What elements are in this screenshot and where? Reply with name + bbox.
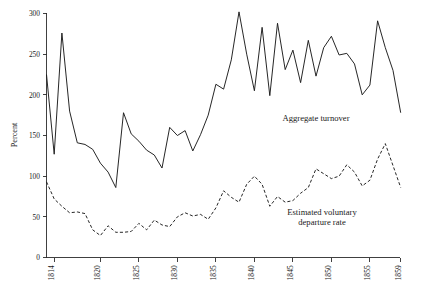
chart-axes bbox=[47, 13, 401, 258]
y-tick-label: 150 bbox=[29, 131, 40, 140]
chart-figure: 300 250 200 150 100 50 0 Percent 1814 18 bbox=[0, 0, 429, 293]
x-tick-label: 1855 bbox=[363, 265, 372, 281]
y-tick-label: 300 bbox=[29, 9, 40, 18]
line-chart: 300 250 200 150 100 50 0 Percent 1814 18 bbox=[0, 0, 429, 293]
x-tick-label: 1835 bbox=[209, 265, 218, 281]
y-tick-label: 250 bbox=[29, 50, 40, 59]
y-tick-labels: 300 250 200 150 100 50 0 bbox=[29, 9, 40, 262]
aggregate-turnover-label: Aggregate turnover bbox=[282, 113, 349, 123]
y-axis-title: Percent bbox=[10, 122, 19, 147]
y-tick-label: 0 bbox=[36, 253, 40, 262]
x-tick-labels: 1814 1820 1825 1830 1835 1840 1845 1850 … bbox=[47, 265, 403, 281]
y-tick-marks bbox=[43, 14, 47, 258]
series-line-aggregate-turnover bbox=[47, 12, 401, 188]
y-tick-label: 200 bbox=[29, 91, 40, 100]
x-tick-label: 1850 bbox=[324, 265, 333, 281]
x-tick-label: 1845 bbox=[286, 265, 295, 281]
x-tick-label: 1830 bbox=[170, 265, 179, 281]
x-tick-label: 1859 bbox=[394, 265, 403, 281]
series-line-departure-rate bbox=[47, 144, 401, 236]
departure-rate-label-line1: Estimated voluntary bbox=[287, 207, 357, 217]
y-tick-label: 50 bbox=[33, 213, 41, 222]
x-tick-label: 1840 bbox=[247, 265, 256, 281]
x-tick-label: 1820 bbox=[93, 265, 102, 281]
x-tick-label: 1814 bbox=[47, 265, 56, 281]
y-tick-label: 100 bbox=[29, 172, 40, 181]
x-tick-marks bbox=[54, 258, 401, 263]
departure-rate-label-line2: departure rate bbox=[298, 217, 346, 227]
x-tick-label: 1825 bbox=[132, 265, 141, 281]
